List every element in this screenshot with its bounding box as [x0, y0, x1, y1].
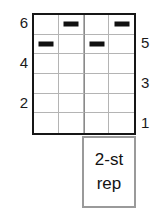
matrix-cell-r5c2	[59, 94, 84, 114]
dash-mark-icon	[39, 41, 54, 46]
matrix-cell-r6c3	[84, 113, 109, 133]
matrix-cell-r4c2	[59, 74, 84, 94]
matrix-cell-r1c1	[34, 15, 59, 35]
matrix-cell-r3c4	[109, 54, 134, 74]
dash-mark-icon	[114, 22, 129, 27]
caption-box: 2-st rep	[82, 136, 136, 208]
matrix-cell-r3c1	[34, 54, 59, 74]
matrix-cell-r3c3	[84, 54, 109, 74]
dash-mark-icon	[89, 41, 104, 46]
axis-right-tick-1: 1	[141, 115, 149, 130]
matrix-cell-r1c2	[59, 15, 84, 35]
axis-left-tick-4: 4	[20, 55, 28, 70]
matrix-cells	[34, 15, 134, 133]
matrix-cell-r6c2	[59, 113, 84, 133]
matrix-cell-r6c4	[109, 113, 134, 133]
matrix-cell-r1c4	[109, 15, 134, 35]
matrix-cell-r4c4	[109, 74, 134, 94]
matrix-cell-r5c4	[109, 94, 134, 114]
axis-right-tick-5: 5	[141, 35, 149, 50]
matrix-cell-r2c3	[84, 35, 109, 55]
matrix-cell-r2c4	[109, 35, 134, 55]
axis-left-tick-2: 2	[20, 95, 28, 110]
figure-canvas: 6 4 2 5 3 1	[0, 0, 164, 223]
matrix-cell-r5c3	[84, 94, 109, 114]
matrix-cell-r1c3	[84, 15, 109, 35]
matrix-grid	[32, 13, 136, 135]
dash-mark-icon	[64, 22, 79, 27]
matrix-cell-r6c1	[34, 113, 59, 133]
matrix-cell-r4c1	[34, 74, 59, 94]
axis-right-tick-3: 3	[141, 75, 149, 90]
matrix-cell-r2c2	[59, 35, 84, 55]
matrix-cell-r3c2	[59, 54, 84, 74]
matrix-cell-r5c1	[34, 94, 59, 114]
matrix-cell-r4c3	[84, 74, 109, 94]
axis-left-tick-6: 6	[20, 15, 28, 30]
matrix-cell-r2c1	[34, 35, 59, 55]
caption-line-2: rep	[97, 173, 122, 195]
caption-line-1: 2-st	[95, 149, 123, 171]
